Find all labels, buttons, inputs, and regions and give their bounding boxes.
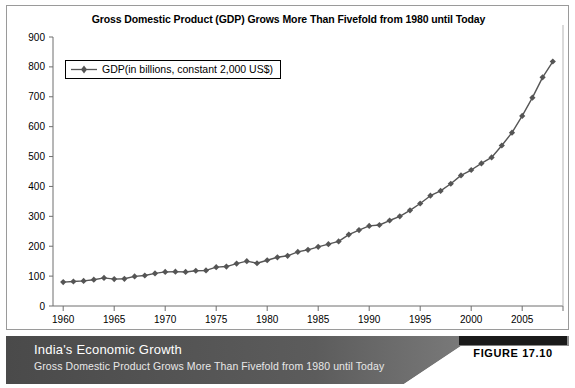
- svg-text:1985: 1985: [307, 314, 330, 325]
- figure-container: Gross Domestic Product (GDP) Grows More …: [0, 0, 575, 388]
- legend-label: GDP(in billions, constant 2,000 US$): [102, 63, 273, 75]
- svg-text:700: 700: [28, 91, 45, 102]
- svg-text:0: 0: [39, 301, 45, 312]
- figure-caption-band: India's Economic Growth Gross Domestic P…: [6, 336, 569, 384]
- svg-text:1970: 1970: [154, 314, 177, 325]
- svg-text:500: 500: [28, 151, 45, 162]
- svg-text:1980: 1980: [256, 314, 279, 325]
- svg-text:400: 400: [28, 181, 45, 192]
- svg-text:1995: 1995: [409, 314, 432, 325]
- legend-marker-icon: [71, 65, 97, 74]
- x-axis: 1960196519701975198019851990199520002005: [52, 306, 563, 325]
- figure-number-badge: FIGURE 17.10: [459, 336, 567, 359]
- svg-text:2005: 2005: [511, 314, 534, 325]
- gdp-line-chart: 0100200300400500600700800900 19601965197…: [7, 6, 570, 331]
- chart-panel: Gross Domestic Product (GDP) Grows More …: [6, 5, 569, 330]
- svg-text:900: 900: [28, 32, 45, 43]
- svg-text:1960: 1960: [52, 314, 75, 325]
- svg-text:1975: 1975: [205, 314, 228, 325]
- chart-legend: GDP(in billions, constant 2,000 US$): [65, 60, 281, 79]
- svg-text:100: 100: [28, 271, 45, 282]
- figure-number-label: FIGURE 17.10: [459, 345, 567, 359]
- svg-text:1965: 1965: [103, 314, 126, 325]
- svg-text:300: 300: [28, 211, 45, 222]
- figure-badge-bar: [459, 336, 567, 345]
- caption-subtitle: Gross Domestic Product Grows More Than F…: [34, 360, 384, 372]
- y-axis: 0100200300400500600700800900: [28, 32, 53, 312]
- svg-text:200: 200: [28, 241, 45, 252]
- caption-text-group: India's Economic Growth Gross Domestic P…: [34, 342, 384, 372]
- svg-text:800: 800: [28, 61, 45, 72]
- svg-text:1990: 1990: [358, 314, 381, 325]
- svg-text:2000: 2000: [460, 314, 483, 325]
- svg-text:600: 600: [28, 121, 45, 132]
- caption-title: India's Economic Growth: [34, 342, 384, 357]
